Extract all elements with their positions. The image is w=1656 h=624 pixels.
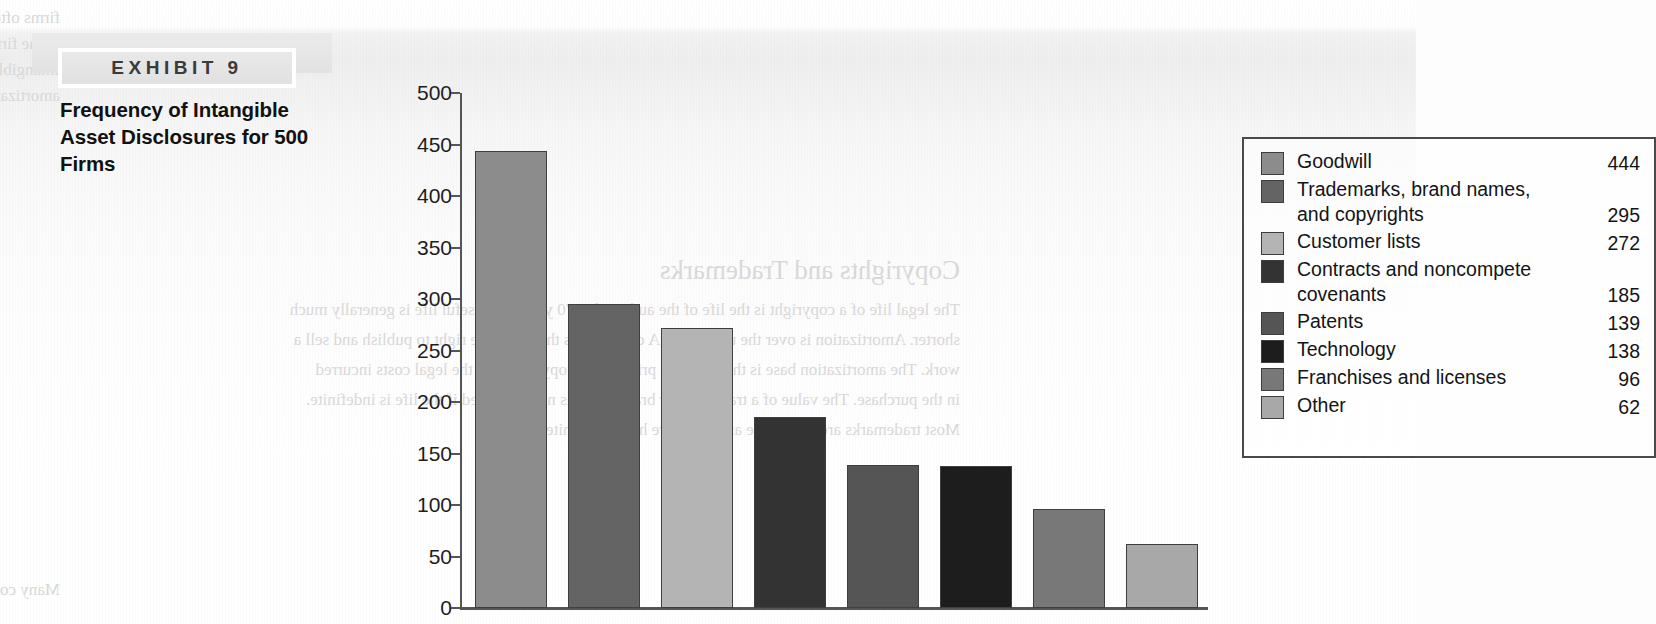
y-axis-tick-label: 200 [406, 390, 452, 414]
legend-item-label: Franchises and licenses [1297, 365, 1586, 390]
legend-item-label: Technology [1297, 337, 1586, 362]
legend-swatch-icon [1261, 340, 1284, 363]
legend-item-label-line2: and copyrights [1297, 202, 1586, 227]
legend-item-value: 96 [1586, 368, 1640, 391]
legend-item-label: Customer lists [1297, 229, 1586, 254]
legend-swatch-icon [1261, 396, 1284, 419]
y-axis-tick [451, 195, 460, 197]
bar [1126, 544, 1198, 608]
legend-item-value: 185 [1586, 284, 1640, 307]
y-axis-tick-label: 450 [406, 133, 452, 157]
y-axis-tick [451, 453, 460, 455]
exhibit-tag-label: EXHIBIT 9 [111, 57, 242, 79]
y-axis-tick-label: 250 [406, 339, 452, 363]
legend-item-label-line1: Franchises and licenses [1297, 365, 1586, 390]
y-axis-tick [451, 401, 460, 403]
ghost-text-line: firms often begin research and developme… [0, 8, 60, 28]
legend-swatch-icon [1261, 312, 1284, 335]
y-axis-tick-label: 500 [406, 81, 452, 105]
y-axis-tick [451, 247, 460, 249]
exhibit-tag: EXHIBIT 9 [58, 48, 296, 88]
legend-item-label-line1: Other [1297, 393, 1586, 418]
legend-item: Patents139 [1244, 309, 1654, 335]
y-axis-tick [451, 144, 460, 146]
legend-item-label-line2: covenants [1297, 282, 1586, 307]
bar-chart: 050100150200250300350400450500 Goodwill4… [400, 60, 1270, 590]
legend-swatch-icon [1261, 180, 1284, 203]
legend-item-label-line1: Technology [1297, 337, 1586, 362]
y-axis-tick [451, 504, 460, 506]
legend-item-label: Contracts and noncompetecovenants [1297, 257, 1586, 307]
bar [1033, 509, 1105, 608]
ghost-text-line: amortization account of purchase intangi… [0, 86, 60, 106]
bar [940, 466, 1012, 608]
bar-series [463, 93, 1208, 608]
y-axis-tick-label: 350 [406, 236, 452, 260]
bar [754, 417, 826, 608]
legend-item-label: Other [1297, 393, 1586, 418]
legend-item: Customer lists272 [1244, 229, 1654, 255]
legend-item-label: Patents [1297, 309, 1586, 334]
legend-item-value: 272 [1586, 232, 1640, 255]
y-axis-tick [451, 556, 460, 558]
bar [847, 465, 919, 608]
legend-item-value: 138 [1586, 340, 1640, 363]
legend-swatch-icon [1261, 368, 1284, 391]
legend-item-value: 295 [1586, 204, 1640, 227]
bar [568, 304, 640, 608]
y-axis-line [460, 93, 462, 608]
legend-item-label-line1: Customer lists [1297, 229, 1586, 254]
y-axis-tick-label: 150 [406, 442, 452, 466]
legend-item: Franchises and licenses96 [1244, 365, 1654, 391]
legend-item-label: Goodwill [1297, 149, 1586, 174]
y-axis-tick-label: 300 [406, 287, 452, 311]
legend-swatch-icon [1261, 232, 1284, 255]
bar [661, 328, 733, 608]
y-axis-tick-label: 100 [406, 493, 452, 517]
legend-item: Technology138 [1244, 337, 1654, 363]
y-axis-tick [451, 350, 460, 352]
legend-item: Other62 [1244, 393, 1654, 419]
y-axis-tick [451, 298, 460, 300]
legend-item-value: 139 [1586, 312, 1640, 335]
y-axis-tick [451, 607, 460, 609]
legend-item: Goodwill444 [1244, 149, 1654, 175]
legend-item-label: Trademarks, brand names,and copyrights [1297, 177, 1586, 227]
y-axis-tick-label: 50 [406, 545, 452, 569]
ghost-text-line: Many companies have disclosed their inta… [0, 580, 60, 600]
y-axis-labels: 050100150200250300350400450500 [400, 93, 452, 608]
legend-item-label-line1: Patents [1297, 309, 1586, 334]
legend-swatch-icon [1261, 152, 1284, 175]
legend-swatch-icon [1261, 260, 1284, 283]
legend-item: Trademarks, brand names,and copyrights29… [1244, 177, 1654, 227]
y-axis-tick [451, 92, 460, 94]
legend-item-label-line1: Contracts and noncompete [1297, 257, 1586, 282]
legend-item: Contracts and noncompetecovenants185 [1244, 257, 1654, 307]
y-axis-tick-label: 0 [406, 596, 452, 620]
legend-item-value: 62 [1586, 396, 1640, 419]
legend-item-label-line1: Goodwill [1297, 149, 1586, 174]
exhibit-title: Frequency of Intangible Asset Disclosure… [60, 96, 330, 177]
legend-item-label-line1: Trademarks, brand names, [1297, 177, 1586, 202]
legend-item-value: 444 [1586, 152, 1640, 175]
bar [475, 151, 547, 608]
y-axis-tick-label: 400 [406, 184, 452, 208]
chart-legend: Goodwill444Trademarks, brand names,and c… [1242, 137, 1656, 458]
